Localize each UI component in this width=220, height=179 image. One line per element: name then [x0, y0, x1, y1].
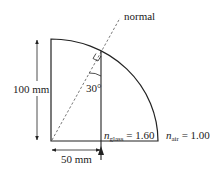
- ray-arrow-icon: [98, 146, 104, 155]
- n-glass-label: nglass = 1.60: [104, 129, 155, 143]
- normal-label: normal: [124, 10, 155, 22]
- quarter-circle-glass-diagram: normal 100 mm 50 mm 30° nglass = 1.60 na…: [0, 0, 220, 179]
- width-label: 50 mm: [61, 153, 92, 165]
- n-air-label: nair = 1.00: [166, 129, 210, 143]
- normal-line: [52, 18, 120, 140]
- n-glass-sub: glass: [110, 135, 124, 143]
- n-air-value: = 1.00: [179, 129, 210, 141]
- height-label: 100 mm: [13, 83, 50, 95]
- angle-arc: [89, 73, 101, 76]
- n-glass-value: = 1.60: [124, 129, 155, 141]
- angle-label: 30°: [86, 82, 101, 94]
- glass-block-outline: [51, 39, 158, 141]
